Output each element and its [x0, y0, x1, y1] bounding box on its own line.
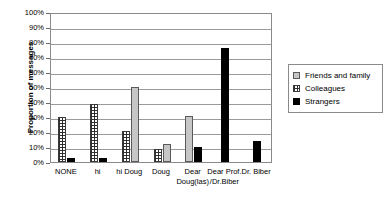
- legend-item: Strangers: [293, 95, 379, 108]
- bar: [163, 144, 171, 162]
- y-tick-label: 40%: [8, 99, 44, 107]
- y-tick-label: 100%: [8, 9, 44, 17]
- bar: [253, 141, 261, 162]
- gridline: [51, 119, 271, 120]
- y-tick-label: 30%: [8, 114, 44, 122]
- gridline: [51, 59, 271, 60]
- bar: [194, 147, 202, 162]
- y-tick-label: 10%: [8, 144, 44, 152]
- bar: [99, 158, 107, 163]
- y-tick-label: 20%: [8, 129, 44, 137]
- legend-label: Strangers: [305, 98, 340, 106]
- bar-chart: Proportion of messages 0%10%20%30%40%50%…: [0, 0, 388, 202]
- y-tick-label: 80%: [8, 39, 44, 47]
- bar: [154, 149, 162, 163]
- y-axis-ticks: 0%10%20%30%40%50%60%70%80%90%100%: [0, 0, 48, 202]
- chart-legend: Friends and familyColleaguesStrangers: [288, 64, 383, 113]
- bar: [185, 116, 193, 163]
- x-tick-label: Dr. Biber: [232, 167, 280, 177]
- gridline: [51, 104, 271, 105]
- y-tick-mark: [46, 163, 50, 164]
- legend-label: Friends and family: [305, 72, 370, 80]
- gridline: [51, 74, 271, 75]
- bar: [122, 131, 130, 163]
- legend-swatch-icon: [293, 98, 300, 105]
- bar: [131, 87, 139, 162]
- legend-item: Colleagues: [293, 82, 379, 95]
- plot-area: [50, 13, 272, 163]
- bar: [58, 117, 66, 162]
- y-tick-label: 60%: [8, 69, 44, 77]
- y-tick-label: 0%: [8, 159, 44, 167]
- bar: [221, 48, 229, 162]
- legend-label: Colleagues: [305, 85, 345, 93]
- gridline: [51, 44, 271, 45]
- y-tick-label: 50%: [8, 84, 44, 92]
- gridline: [51, 134, 271, 135]
- bar: [90, 104, 98, 163]
- y-tick-label: 70%: [8, 54, 44, 62]
- legend-swatch-icon: [293, 85, 300, 92]
- legend-swatch-icon: [293, 72, 300, 79]
- legend-item: Friends and family: [293, 69, 379, 82]
- y-tick-label: 90%: [8, 24, 44, 32]
- bar: [67, 158, 75, 163]
- gridline: [51, 29, 271, 30]
- gridline: [51, 89, 271, 90]
